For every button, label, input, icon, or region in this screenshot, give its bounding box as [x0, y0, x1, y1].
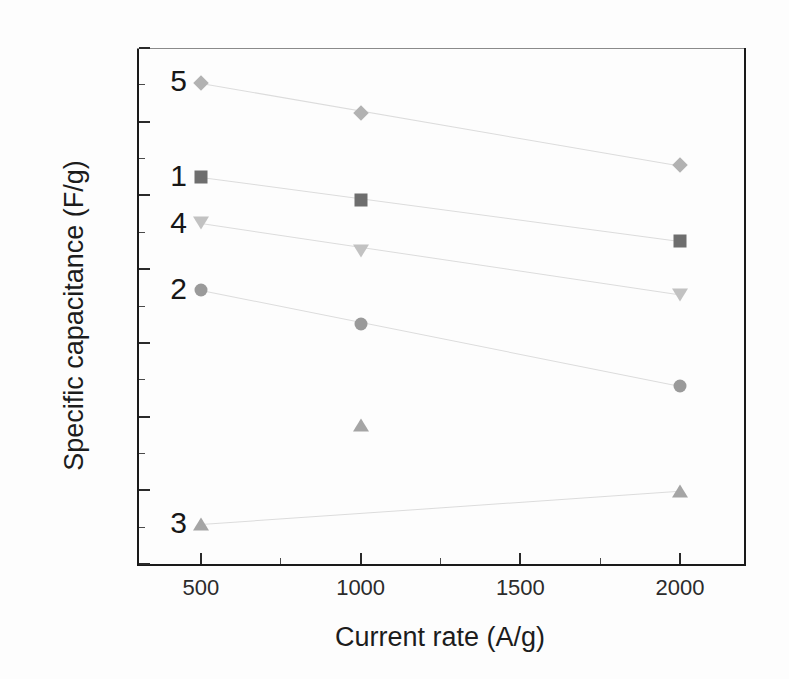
y-tick-minor — [139, 379, 145, 380]
x-tick-minor — [600, 558, 601, 564]
data-point-series-5[interactable] — [672, 157, 688, 173]
x-tick-major — [360, 553, 362, 564]
y-tick-minor — [139, 527, 145, 528]
x-tick-label: 2000 — [635, 575, 725, 601]
y-tick-minor — [139, 232, 145, 233]
y-tick-major — [139, 489, 150, 491]
data-point-series-2[interactable] — [354, 318, 367, 331]
data-point-series-1[interactable] — [674, 235, 687, 248]
y-tick-major — [139, 47, 150, 49]
data-point-series-3[interactable] — [193, 518, 209, 531]
trend-line-series-3 — [201, 491, 680, 525]
x-tick-major — [679, 553, 681, 564]
series-label-2: 2 — [170, 272, 187, 306]
figure-canvas: Specific capacitance (F/g) Current rate … — [0, 0, 789, 679]
x-tick-major — [200, 553, 202, 564]
plot-area: 8090100110120130140150 500100015002000 5… — [137, 48, 745, 565]
series-label-1: 1 — [170, 159, 187, 193]
y-tick-minor — [139, 158, 145, 159]
data-point-series-3[interactable] — [353, 419, 369, 432]
series-label-3: 3 — [170, 506, 187, 540]
x-tick-label: 1000 — [316, 575, 406, 601]
data-point-series-2[interactable] — [674, 379, 687, 392]
x-tick-minor — [280, 558, 281, 564]
x-tick-label: 500 — [156, 575, 246, 601]
axis-line-right — [744, 48, 746, 566]
x-tick-minor — [440, 558, 441, 564]
y-tick-major — [139, 563, 150, 565]
y-tick-major — [139, 342, 150, 344]
data-point-series-2[interactable] — [194, 283, 207, 296]
y-tick-minor — [139, 453, 145, 454]
data-point-series-4[interactable] — [672, 288, 688, 301]
axis-line-top — [137, 48, 746, 49]
y-tick-minor — [139, 84, 145, 85]
x-tick-major — [519, 553, 521, 564]
series-label-4: 4 — [170, 206, 187, 240]
y-tick-minor — [139, 306, 145, 307]
data-point-series-1[interactable] — [354, 193, 367, 206]
x-tick-label: 1500 — [475, 575, 565, 601]
trend-line-series-5 — [201, 83, 680, 167]
data-point-series-3[interactable] — [672, 485, 688, 498]
data-point-series-4[interactable] — [193, 217, 209, 230]
trend-line-series-4 — [201, 223, 680, 295]
y-tick-major — [139, 121, 150, 123]
series-label-5: 5 — [170, 64, 187, 98]
x-axis-title: Current rate (A/g) — [130, 622, 750, 653]
data-point-series-5[interactable] — [353, 105, 369, 121]
data-point-series-5[interactable] — [193, 75, 209, 91]
trend-line-series-1 — [201, 177, 680, 242]
y-tick-major — [139, 416, 150, 418]
data-point-series-1[interactable] — [194, 171, 207, 184]
axis-line-bottom — [137, 564, 746, 566]
y-axis-title: Specific capacitance (F/g) — [59, 56, 90, 576]
data-point-series-4[interactable] — [353, 245, 369, 258]
y-tick-major — [139, 268, 150, 270]
trend-line-series-2 — [201, 290, 680, 387]
y-tick-major — [139, 194, 150, 196]
